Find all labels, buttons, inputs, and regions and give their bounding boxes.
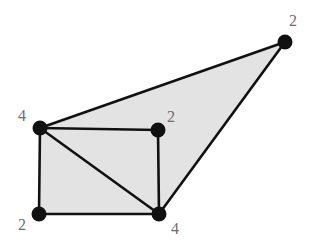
- node-degree-label: 2: [18, 216, 26, 233]
- node-degree-label: 2: [289, 12, 297, 29]
- graph-node: [32, 207, 47, 222]
- node-degree-label: 4: [18, 107, 26, 124]
- node-degree-label: 4: [171, 220, 179, 237]
- graph-node: [152, 207, 167, 222]
- graph-edge: [158, 130, 159, 214]
- graph-node: [151, 123, 166, 138]
- graph-node: [278, 35, 293, 50]
- node-degree-label: 2: [167, 108, 175, 125]
- graph-node: [33, 121, 48, 136]
- graph-edge: [39, 128, 40, 214]
- graph-figure: 24224: [0, 0, 309, 241]
- graph-canvas: 24224: [0, 0, 309, 241]
